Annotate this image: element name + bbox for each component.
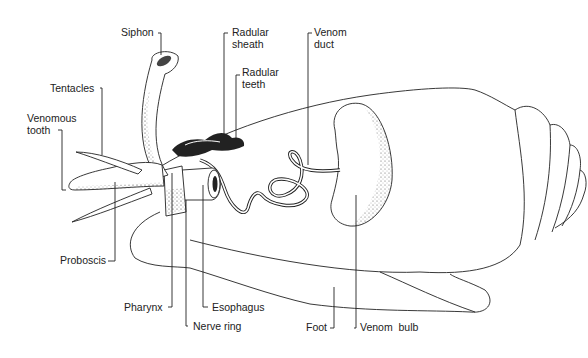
label-venom-duct-line2: duct (314, 38, 334, 50)
label-radular-teeth-line2: teeth (242, 78, 266, 90)
label-radular-sheath-line2: sheath (232, 38, 264, 50)
label-venomous-tooth-line1: Venomous (27, 112, 77, 124)
radular-sheath (172, 133, 244, 157)
esophagus (182, 168, 220, 200)
foot (130, 212, 490, 312)
label-proboscis: Proboscis (60, 254, 106, 266)
label-venom-bulb: Venom bulb (360, 321, 419, 333)
label-radular-sheath-line1: Radular (232, 26, 269, 38)
label-tentacles: Tentacles (50, 82, 94, 94)
label-venomous-tooth-line2: tooth (27, 124, 51, 136)
label-pharynx: Pharynx (124, 301, 163, 313)
venom-duct (200, 152, 340, 213)
label-esophagus: Esophagus (212, 301, 265, 313)
venom-bulb (331, 103, 392, 226)
cone-snail-diagram: Siphon Radular sheath Radular teeth Veno… (0, 0, 588, 358)
label-foot: Foot (306, 321, 327, 333)
label-nerve-ring: Nerve ring (193, 320, 242, 332)
label-radular-teeth-line1: Radular (242, 66, 279, 78)
label-venom-duct-line1: Venom (314, 26, 347, 38)
label-siphon: Siphon (121, 26, 154, 38)
